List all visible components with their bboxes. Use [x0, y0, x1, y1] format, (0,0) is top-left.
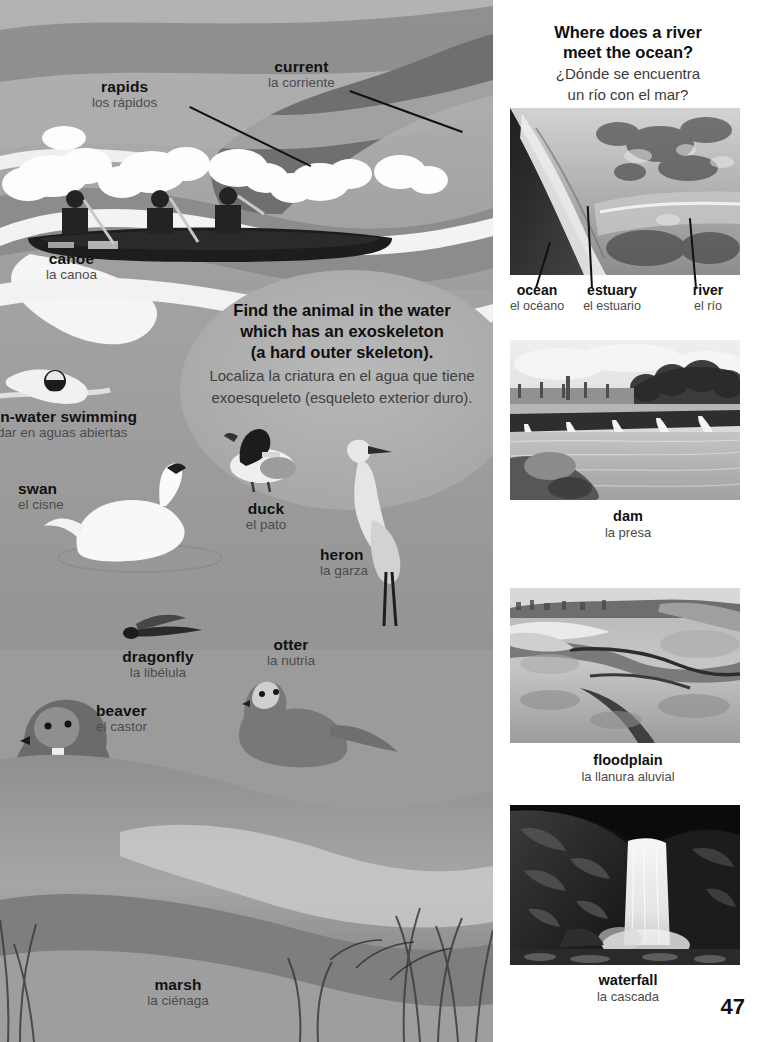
river-illustration-panel: rapids los rápidos current la corriente …: [0, 0, 493, 1042]
heading-en-line-2: meet the ocean?: [493, 42, 763, 62]
otter-art: [239, 682, 398, 768]
waterfall-photo: [510, 805, 740, 965]
label-open-water-swimming: pen-water swimming nadar en aguas abiert…: [0, 408, 137, 440]
label-current: current la corriente: [268, 58, 335, 90]
right-column: Where does a river meet the ocean? ¿Dónd…: [493, 0, 763, 1042]
dam-photo: [510, 340, 740, 500]
heading-es-line-1: ¿Dónde se encuentra: [493, 65, 763, 84]
label-swan: swan el cisne: [18, 480, 64, 512]
estuary-label-estuary: estuary el estuario: [571, 283, 653, 313]
estuary-label-river: river el río: [673, 283, 743, 313]
label-beaver: beaver el castor: [96, 702, 147, 734]
estuary-aerial-photo: [510, 108, 740, 275]
riddle-es-line-2: exoesqueleto (esqueleto exterior duro).: [186, 388, 493, 407]
riddle-en-line-3: (a hard outer skeleton).: [186, 342, 493, 363]
heading-en-line-1: Where does a river: [493, 22, 763, 42]
heading-es-line-2: un río con el mar?: [493, 86, 763, 105]
estuary-label-ocean: ocean el océano: [501, 283, 573, 313]
riddle-text-block: Find the animal in the water which has a…: [186, 300, 493, 407]
label-otter: otter la nutria: [252, 636, 330, 668]
section-heading: Where does a river meet the ocean? ¿Dónd…: [493, 22, 763, 104]
riddle-en-line-2: which has an exoskeleton: [186, 321, 493, 342]
page-root: rapids los rápidos current la corriente …: [0, 0, 763, 1042]
page-number: 47: [721, 994, 745, 1020]
riddle-es-line-1: Localiza la criatura en el agua que tien…: [186, 366, 493, 385]
label-duck: duck el pato: [224, 500, 308, 532]
label-canoe: canoe la canoa: [46, 250, 97, 282]
floodplain-photo: [510, 588, 740, 743]
label-marsh: marsh la ciénaga: [134, 976, 222, 1008]
caption-floodplain: floodplain la llanura aluvial: [493, 752, 763, 785]
label-rapids: rapids los rápidos: [92, 78, 157, 110]
caption-dam: dam la presa: [493, 508, 763, 541]
riddle-en-line-1: Find the animal in the water: [186, 300, 493, 321]
label-dragonfly: dragonfly la libélula: [104, 648, 212, 680]
label-heron: heron la garza: [320, 546, 368, 578]
